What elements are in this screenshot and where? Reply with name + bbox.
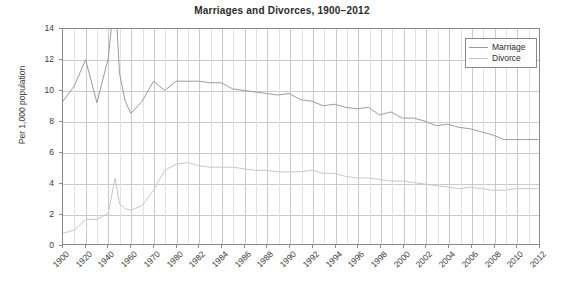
x-axis-tick bbox=[198, 245, 199, 248]
chart-figure: Marriages and Divorces, 1900−2012 Per 1,… bbox=[0, 0, 564, 288]
x-axis-tick-label: 1960 bbox=[114, 249, 139, 274]
x-axis-tick-label: 1992 bbox=[295, 249, 320, 274]
x-axis-tick-label: 1986 bbox=[227, 249, 252, 274]
x-axis: 1900192019401960197019801982198419861988… bbox=[0, 245, 564, 288]
y-axis-tick-label: 10 bbox=[45, 85, 54, 95]
x-axis-tick-label: 2006 bbox=[454, 249, 479, 274]
x-axis-tick-label: 2012 bbox=[523, 249, 548, 274]
x-axis-tick bbox=[425, 245, 426, 248]
x-axis-tick bbox=[380, 245, 381, 248]
x-axis-tick-label: 2002 bbox=[409, 249, 434, 274]
y-axis-tick-label: 12 bbox=[45, 54, 54, 64]
x-axis-tick-label: 1980 bbox=[159, 249, 184, 274]
x-axis-tick bbox=[335, 245, 336, 248]
x-axis-tick-label: 1988 bbox=[250, 249, 275, 274]
x-axis-tick-label: 1984 bbox=[205, 249, 230, 274]
y-axis-tick-label: 6 bbox=[49, 147, 54, 157]
legend-label-divorce: Divorce bbox=[492, 53, 521, 64]
x-axis-tick bbox=[516, 245, 517, 248]
x-axis-tick-label: 1990 bbox=[273, 249, 298, 274]
x-axis-tick bbox=[244, 245, 245, 248]
y-axis-tick-label: 14 bbox=[45, 23, 54, 33]
x-axis-tick bbox=[312, 245, 313, 248]
x-axis-tick-label: 1998 bbox=[364, 249, 389, 274]
y-axis-tick-label: 8 bbox=[49, 116, 54, 126]
x-axis-tick bbox=[85, 245, 86, 248]
x-axis-tick-label: 2004 bbox=[432, 249, 457, 274]
legend-swatch-divorce bbox=[469, 58, 488, 59]
x-axis-tick bbox=[107, 245, 108, 248]
legend-swatch-marriage bbox=[469, 47, 488, 48]
x-axis-tick-label: 1996 bbox=[341, 249, 366, 274]
y-axis-title: Per 1,000 population bbox=[17, 25, 27, 185]
x-axis-tick bbox=[448, 245, 449, 248]
x-axis-tick-label: 1920 bbox=[68, 249, 93, 274]
x-axis-tick bbox=[539, 245, 540, 248]
legend-label-marriage: Marriage bbox=[492, 42, 526, 53]
x-axis-tick bbox=[357, 245, 358, 248]
x-axis-tick bbox=[471, 245, 472, 248]
y-axis-tick-label: 2 bbox=[49, 209, 54, 219]
x-axis-tick-label: 1994 bbox=[318, 249, 343, 274]
x-axis-tick bbox=[221, 245, 222, 248]
legend-item-marriage: Marriage bbox=[469, 42, 532, 53]
x-axis-tick bbox=[62, 245, 63, 248]
x-axis-tick-label: 1970 bbox=[136, 249, 161, 274]
x-axis-tick-label: 1900 bbox=[46, 249, 71, 274]
x-axis-tick bbox=[266, 245, 267, 248]
y-axis-tick-label: 4 bbox=[49, 178, 54, 188]
x-axis-tick-label: 2010 bbox=[500, 249, 525, 274]
x-axis-tick bbox=[153, 245, 154, 248]
series-line-divorce bbox=[63, 163, 538, 234]
x-axis-tick bbox=[289, 245, 290, 248]
x-axis-tick bbox=[176, 245, 177, 248]
x-axis-tick bbox=[494, 245, 495, 248]
x-axis-tick bbox=[130, 245, 131, 248]
x-axis-tick-label: 2008 bbox=[477, 249, 502, 274]
legend-item-divorce: Divorce bbox=[469, 53, 532, 64]
x-axis-tick-label: 1940 bbox=[91, 249, 116, 274]
x-axis-tick bbox=[403, 245, 404, 248]
x-axis-tick-label: 1982 bbox=[182, 249, 207, 274]
chart-legend: Marriage Divorce bbox=[465, 38, 537, 68]
x-axis-tick-label: 2000 bbox=[386, 249, 411, 274]
chart-title: Marriages and Divorces, 1900−2012 bbox=[0, 5, 564, 16]
